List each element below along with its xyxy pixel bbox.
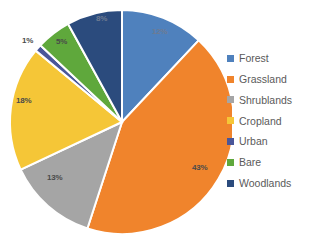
legend-item-shrublands[interactable]: Shrublands: [227, 90, 310, 111]
slice-value-label-shrublands: 13%: [47, 173, 62, 182]
legend-label: Bare: [239, 157, 261, 168]
slice-value-label-grassland: 43%: [192, 163, 207, 172]
legend-swatch-urban: [227, 138, 234, 145]
legend-label: Urban: [239, 136, 268, 147]
legend-swatch-bare: [227, 159, 234, 166]
slice-value-label-forest: 12%: [152, 27, 167, 36]
pie-plot-area: 12%43%13%18%1%5%8%: [0, 0, 232, 240]
legend-label: Forest: [239, 53, 269, 64]
legend-label: Shrublands: [239, 95, 292, 106]
legend-item-urban[interactable]: Urban: [227, 131, 310, 152]
legend-swatch-forest: [227, 55, 234, 62]
legend-item-grassland[interactable]: Grassland: [227, 69, 310, 90]
slice-value-label-cropland: 18%: [16, 96, 31, 105]
legend-item-cropland[interactable]: Cropland: [227, 110, 310, 131]
legend-swatch-shrublands: [227, 96, 234, 103]
chart-legend: ForestGrasslandShrublandsCroplandUrbanBa…: [227, 48, 310, 194]
legend-item-woodlands[interactable]: Woodlands: [227, 173, 310, 194]
legend-label: Woodlands: [239, 178, 291, 189]
legend-swatch-grassland: [227, 76, 234, 83]
pie-slices: [0, 0, 232, 240]
slice-value-label-urban: 1%: [22, 36, 33, 45]
slice-value-label-bare: 5%: [56, 37, 67, 46]
slice-value-label-woodlands: 8%: [96, 14, 107, 23]
legend-swatch-cropland: [227, 117, 234, 124]
legend-swatch-woodlands: [227, 180, 234, 187]
legend-item-forest[interactable]: Forest: [227, 48, 310, 69]
pie-chart: 12%43%13%18%1%5%8% ForestGrasslandShrubl…: [0, 0, 310, 240]
legend-label: Grassland: [239, 74, 287, 85]
legend-label: Cropland: [239, 116, 282, 127]
legend-item-bare[interactable]: Bare: [227, 152, 310, 173]
